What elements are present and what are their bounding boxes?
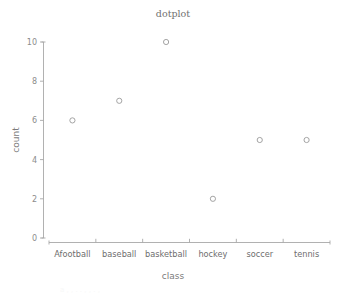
y-tick-label: 8 (32, 77, 37, 86)
x-category-label: Afootball (54, 249, 90, 259)
y-tick-label: 0 (32, 234, 37, 243)
x-category-label: hockey (198, 249, 227, 259)
y-tick-label: 6 (32, 116, 37, 125)
y-tick-label: 10 (27, 38, 37, 47)
data-point-marker (163, 39, 168, 44)
x-axis-category-labels: Afootballbaseballbasketballhockeysoccert… (54, 249, 319, 259)
x-axis-ticks (96, 239, 283, 243)
data-point-marker (210, 196, 215, 201)
y-axis-title: count (11, 127, 21, 153)
x-category-label: baseball (102, 249, 136, 259)
dotplot-figure: dotplot 0246810 count Afootballbaseballb… (0, 0, 347, 300)
data-point-marker (117, 98, 122, 103)
x-category-label: basketball (145, 249, 187, 259)
x-category-label: soccer (246, 249, 273, 259)
data-point-marker (304, 137, 309, 142)
y-tick-label: 2 (32, 195, 37, 204)
x-axis-title: class (162, 271, 185, 281)
data-point-marker (257, 137, 262, 142)
y-axis-line (42, 42, 46, 238)
data-point-marker (70, 118, 75, 123)
y-tick-label: 4 (32, 156, 37, 165)
x-category-label: tennis (294, 249, 319, 259)
chart-title: dotplot (156, 8, 190, 19)
y-axis-ticks: 0246810 (27, 38, 44, 243)
data-point-group (70, 39, 309, 201)
chart-canvas: dotplot 0246810 count Afootballbaseballb… (0, 0, 347, 300)
